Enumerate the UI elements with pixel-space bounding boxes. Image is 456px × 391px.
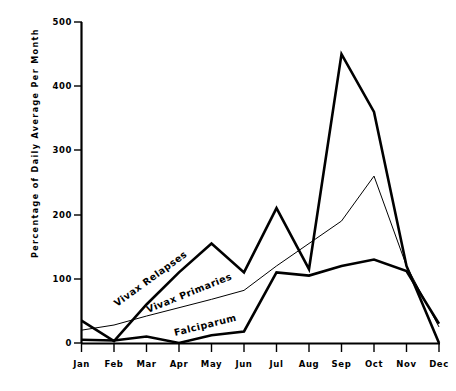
y-axis-tick-labels: 500 400 300 200 100 0 <box>52 17 72 348</box>
y-tick-label: 400 <box>52 81 72 91</box>
x-tick-label-mar: Mar <box>136 359 156 369</box>
y-tick-label: 500 <box>52 17 72 27</box>
x-tick-label-oct: Oct <box>365 359 383 369</box>
x-tick-label-nov: Nov <box>396 359 416 369</box>
x-tick-label-jan: Jan <box>72 359 90 369</box>
x-tick-label-aug: Aug <box>299 359 320 369</box>
x-tick-label-sep: Sep <box>332 359 352 369</box>
x-tick-label-jul: Jul <box>269 359 284 369</box>
x-tick-label-jun: Jun <box>234 359 252 369</box>
y-tick-label: 0 <box>65 338 72 348</box>
y-tick-label: 300 <box>52 145 72 155</box>
line-chart: Percentage of Daily Average Per Month 50… <box>0 0 456 391</box>
series-line-vivax-primaries <box>82 176 440 330</box>
x-axis-tick-labels: Jan Feb Mar Apr May Jun Jul Aug Sep Oct … <box>72 359 449 369</box>
chart-figure: Percentage of Daily Average Per Month 50… <box>0 0 456 391</box>
y-axis-label: Percentage of Daily Average Per Month <box>31 28 40 258</box>
y-tick-label: 100 <box>52 274 72 284</box>
y-tick-label: 200 <box>52 210 72 220</box>
x-tick-label-apr: Apr <box>170 359 189 369</box>
x-tick-label-dec: Dec <box>429 359 449 369</box>
series-line-falciparum <box>82 260 440 343</box>
x-tick-label-may: May <box>201 359 222 369</box>
x-tick-label-feb: Feb <box>104 359 123 369</box>
